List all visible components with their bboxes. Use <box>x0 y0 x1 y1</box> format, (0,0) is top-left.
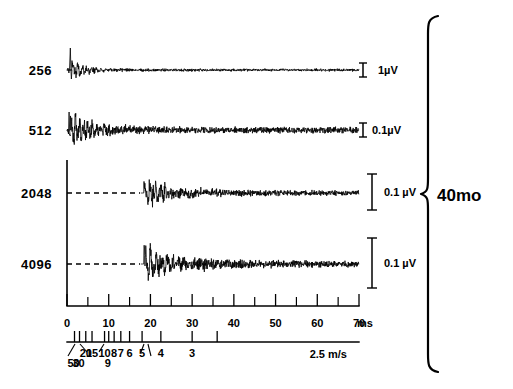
waveform-4096 <box>141 243 359 280</box>
trace-label-512: 512 <box>29 123 52 138</box>
scale-bar-256 <box>359 63 367 77</box>
trace-group-256: 256 1µV <box>29 48 399 79</box>
velocity-tick-label-15: 15 <box>86 347 98 359</box>
time-tick-label-20: 20 <box>144 317 156 329</box>
trace-label-4096: 4096 <box>21 257 52 272</box>
time-tick-label-50: 50 <box>269 317 281 329</box>
scale-bar-512 <box>359 123 367 137</box>
velocity-tick-label-6: 6 <box>127 347 133 359</box>
velocity-tick-label-9: 9 <box>105 357 111 369</box>
velocity-tick-label-3: 3 <box>189 347 195 359</box>
scale-label-2048: 0.1 µV <box>384 186 417 198</box>
time-tick-label-10: 10 <box>103 317 115 329</box>
velocity-axis-unit: 2.5 m/s <box>310 348 347 360</box>
trace-group-2048: 2048 0.1 µV <box>21 174 417 210</box>
trace-group-4096: 4096 0.1 µV <box>21 238 417 288</box>
evoked-potential-figure: 256 1µV 512 0.1µV 2048 <box>0 0 513 389</box>
time-axis-tick-labels: 010203040506070 <box>64 317 365 329</box>
scale-bar-2048 <box>367 174 377 210</box>
velocity-axis: 50302015109876543 2.5 m/s <box>67 331 359 369</box>
scale-label-4096: 0.1 µV <box>384 257 417 269</box>
scale-bar-4096 <box>367 238 377 288</box>
velocity-leader-50 <box>68 344 75 356</box>
time-tick-label-30: 30 <box>186 317 198 329</box>
time-axis-ticks <box>67 294 359 306</box>
trace-label-256: 256 <box>29 63 52 78</box>
time-tick-label-40: 40 <box>228 317 240 329</box>
time-tick-label-0: 0 <box>64 317 70 329</box>
time-tick-label-60: 60 <box>311 317 323 329</box>
scale-label-512: 0.1µV <box>372 124 402 136</box>
time-axis-unit: ms <box>357 317 373 329</box>
velocity-tick-label-7: 7 <box>118 347 124 359</box>
time-axis: 010203040506070 ms <box>64 294 373 329</box>
velocity-axis-tick-labels: 50302015109876543 <box>67 347 195 369</box>
waveform-512 <box>67 112 359 145</box>
trace-label-2048: 2048 <box>21 186 52 201</box>
waveform-2048 <box>141 180 359 208</box>
trace-group-512: 512 0.1µV <box>29 112 402 145</box>
velocity-tick-label-4: 4 <box>158 347 165 359</box>
figure-canvas: 256 1µV 512 0.1µV 2048 <box>0 0 513 389</box>
group-brace: 40mo <box>421 16 481 372</box>
velocity-tick-label-8: 8 <box>111 347 117 359</box>
scale-label-256: 1µV <box>378 64 398 76</box>
group-label: 40mo <box>437 186 481 205</box>
velocity-axis-ticks <box>75 331 218 342</box>
velocity-leader-9 <box>148 344 151 356</box>
waveform-256 <box>67 48 359 79</box>
